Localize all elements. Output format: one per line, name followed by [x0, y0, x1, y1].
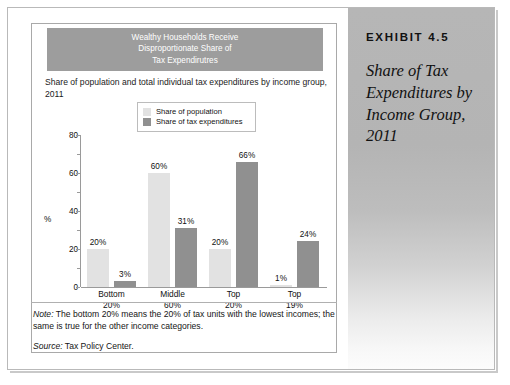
chart-card: Wealthy Households Receive Disproportion… [31, 23, 337, 353]
chart-bar: 60% [148, 173, 170, 287]
exhibit-number: EXHIBIT 4.5 [366, 31, 494, 43]
chart-title-line-1: Wealthy Households Receive [47, 32, 323, 43]
y-tick-label: 40 [56, 207, 78, 216]
chart-title-line-2: Disproportionate Share of [47, 43, 323, 54]
x-axis-line [81, 287, 327, 288]
chart-legend: Share of population Share of tax expendi… [137, 102, 256, 132]
chart-bar: 20% [87, 249, 109, 287]
chart-subtitle: Share of population and total individual… [45, 76, 330, 100]
y-tick-mark [76, 287, 80, 288]
chart-title-line-3: Tax Expendirutres [47, 55, 323, 66]
exhibit-panel-inner: EXHIBIT 4.5 Share of Tax Expenditures by… [348, 8, 494, 147]
bar-value-label: 20% [212, 238, 228, 247]
legend-item-population: Share of population [143, 107, 250, 116]
source-body: Tax Policy Center. [63, 341, 134, 351]
y-tick-mark [76, 249, 80, 250]
legend-item-tax-expenditures: Share of tax expenditures [143, 117, 250, 126]
plot-area: 20%3%60%31%20%66%1%24% [81, 135, 325, 287]
bar-value-label: 24% [300, 230, 316, 239]
exhibit-side-panel: EXHIBIT 4.5 Share of Tax Expenditures by… [348, 8, 494, 369]
bar-value-label: 20% [90, 238, 106, 247]
chart-bar: 24% [297, 241, 319, 287]
y-tick-mark [76, 173, 80, 174]
chart-bar: 20% [209, 249, 231, 287]
bar-value-label: 60% [151, 162, 167, 171]
note-body: The bottom 20% means the 20% of tax unit… [33, 309, 335, 331]
y-tick-label: 80 [56, 131, 78, 140]
note-label: Note: [33, 309, 54, 319]
y-axis-label: % [44, 215, 51, 224]
y-tick-label: 0 [56, 283, 78, 292]
notes-block: Note: The bottom 20% means the 20% of ta… [33, 308, 337, 352]
y-tick-mark-minor [77, 268, 80, 269]
y-tick-mark-minor [77, 192, 80, 193]
x-axis-label-line: Top [225, 289, 242, 300]
y-tick-mark [76, 211, 80, 212]
x-axis-label-line: Top [286, 289, 303, 300]
chart-bar: 66% [236, 162, 258, 287]
exhibit-title: Share of Tax Expenditures by Income Grou… [366, 60, 478, 147]
legend-label-population: Share of population [156, 107, 222, 116]
y-tick-label: 20 [56, 245, 78, 254]
x-axis-label-line: Middle [160, 289, 185, 300]
bar-value-label: 31% [178, 217, 194, 226]
bar-value-label: 1% [275, 274, 287, 283]
y-tick-mark-minor [77, 154, 80, 155]
legend-swatch-tax-expenditures [143, 118, 151, 126]
source-text: Source: Tax Policy Center. [33, 340, 337, 352]
plot-wrapper: Share of population Share of tax expendi… [44, 102, 327, 297]
note-separator [31, 302, 337, 303]
bar-value-label: 3% [119, 270, 131, 279]
source-label: Source: [33, 341, 63, 351]
x-axis-label-line: Bottom [98, 289, 125, 300]
chart-title-band: Wealthy Households Receive Disproportion… [47, 28, 323, 71]
note-text: Note: The bottom 20% means the 20% of ta… [33, 308, 337, 333]
y-tick-mark-minor [77, 230, 80, 231]
chart-bar: 31% [175, 228, 197, 287]
legend-swatch-population [143, 108, 151, 116]
exhibit-figure: Wealthy Households Receive Disproportion… [0, 0, 510, 385]
y-tick-label: 60 [56, 169, 78, 178]
y-axis-tick-labels: 020406080 [56, 135, 78, 287]
legend-label-tax-expenditures: Share of tax expenditures [156, 117, 243, 126]
bar-value-label: 66% [239, 151, 255, 160]
y-tick-mark [76, 135, 80, 136]
